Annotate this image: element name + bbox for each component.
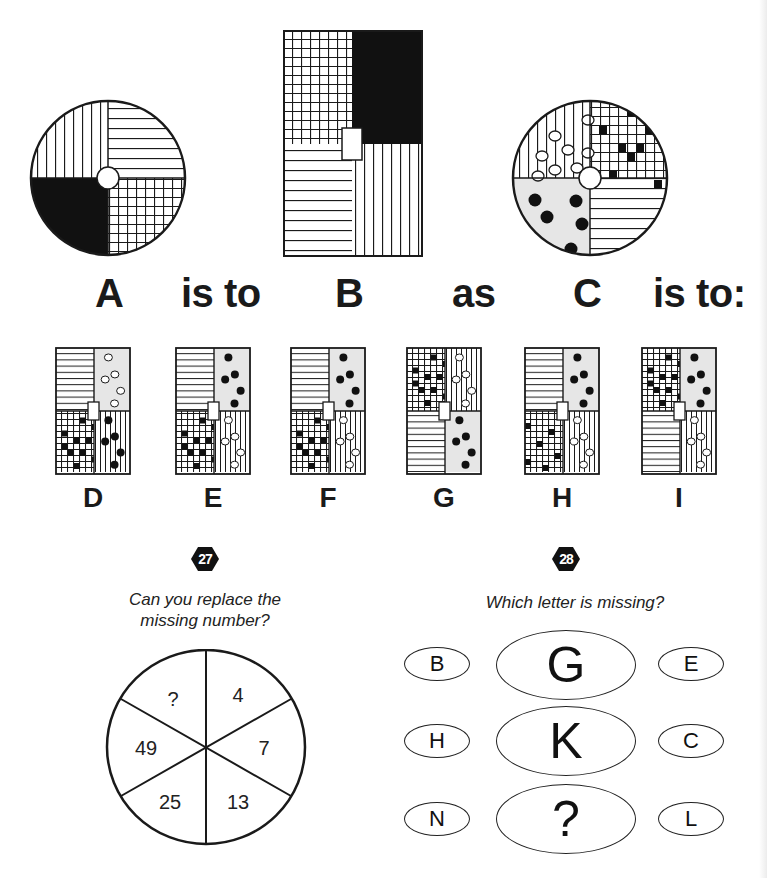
figure-b-rectangle — [283, 30, 423, 257]
figure-a-circle — [28, 98, 188, 258]
option-i-figure[interactable] — [641, 347, 717, 475]
letter-row3-right: L — [658, 802, 724, 836]
wheel-segment-top-right: 4 — [218, 685, 258, 705]
text-is-to-colon: is to: — [653, 273, 746, 313]
puzzle-28-number: 28 — [551, 546, 581, 572]
label-c: C — [573, 273, 601, 313]
option-f-label[interactable]: F — [298, 484, 358, 512]
wheel-segment-top-left: ? — [153, 689, 193, 709]
option-g-label[interactable]: G — [414, 484, 474, 512]
puzzle-28-badge: 28 — [551, 546, 581, 572]
text-as: as — [452, 273, 496, 313]
question-line-2: missing number? — [105, 610, 305, 631]
puzzle-28-question: Which letter is missing? — [445, 592, 705, 613]
option-e-label[interactable]: E — [183, 484, 243, 512]
label-a: A — [95, 273, 123, 313]
option-e-figure[interactable] — [175, 347, 251, 475]
letter-row3-left: N — [404, 802, 470, 836]
page-edge-shadow — [759, 0, 767, 878]
option-h-label[interactable]: H — [532, 484, 592, 512]
letter-row2-left: H — [404, 724, 470, 758]
wheel-segment-bottom-left: 25 — [150, 792, 190, 812]
option-d-label[interactable]: D — [63, 484, 123, 512]
option-d-figure[interactable] — [55, 347, 131, 475]
option-g-figure[interactable] — [406, 347, 482, 475]
wheel-segment-bottom-right: 13 — [218, 792, 258, 812]
text-is-to: is to — [181, 273, 261, 313]
option-f-figure[interactable] — [290, 347, 366, 475]
letter-row1-right: E — [658, 647, 724, 681]
letter-row2-right: C — [658, 724, 724, 758]
figure-c-circle — [510, 98, 670, 258]
puzzle-27-number: 27 — [190, 546, 220, 572]
puzzle-27-badge: 27 — [190, 546, 220, 572]
question-line-1: Can you replace the — [105, 589, 305, 610]
puzzle-27-question: Can you replace the missing number? — [105, 589, 305, 631]
letter-row3-center-missing: ? — [496, 784, 636, 854]
letter-row2-center: K — [496, 706, 636, 776]
wheel-segment-right: 7 — [244, 738, 284, 758]
option-h-figure[interactable] — [524, 347, 600, 475]
letter-row1-center: G — [496, 630, 636, 700]
letter-row1-left: B — [404, 647, 470, 681]
label-b: B — [335, 273, 363, 313]
wheel-segment-left: 49 — [126, 738, 166, 758]
option-i-label[interactable]: I — [649, 484, 709, 512]
